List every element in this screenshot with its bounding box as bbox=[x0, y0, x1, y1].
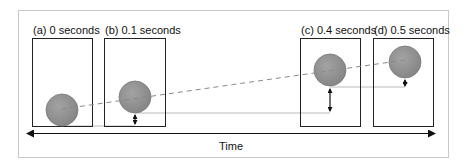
ball-c bbox=[314, 54, 346, 86]
time-axis-label: Time bbox=[219, 140, 243, 152]
falling-ball-diagram: (a) 0 seconds (b) 0.1 seconds (c) 0.4 se… bbox=[0, 0, 463, 165]
frame-label-c: (c) 0.4 seconds bbox=[301, 24, 377, 36]
ball-a bbox=[46, 94, 78, 126]
frame-label-b: (b) 0.1 seconds bbox=[105, 24, 181, 36]
frame-label-d: (d) 0.5 seconds bbox=[374, 24, 450, 36]
frame-label-a: (a) 0 seconds bbox=[33, 24, 100, 36]
